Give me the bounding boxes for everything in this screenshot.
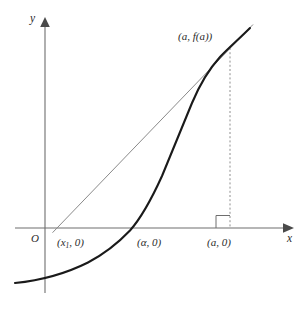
x-axis-label: x (287, 233, 292, 245)
tangent-intercept-label-head: (x (57, 236, 66, 248)
y-axis-label: y (30, 13, 35, 25)
origin-label: O (31, 233, 39, 244)
curve-root-label: (α, 0) (137, 237, 161, 248)
tangent-intercept-label-sub: 1 (66, 241, 70, 250)
tangent-line (53, 25, 254, 233)
right-angle-marker (216, 216, 230, 229)
tangent-line-figure: y x O (a, f(a)) (x1, 0) (α, 0) (a, 0) (0, 0, 305, 314)
y-axis-arrowhead (40, 17, 50, 27)
tangent-intercept-label: (x1, 0) (57, 237, 84, 248)
axis-point-label: (a, 0) (207, 237, 231, 248)
point-of-tangency-label: (a, f(a)) (178, 31, 212, 42)
tangent-intercept-label-tail: , 0) (69, 236, 84, 248)
figure-canvas (0, 0, 305, 314)
